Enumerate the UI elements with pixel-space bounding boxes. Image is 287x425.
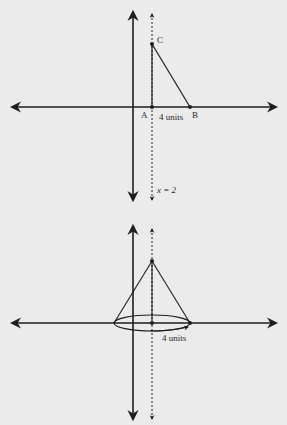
label-line-x2: x = 2	[156, 185, 177, 195]
cone-apex	[150, 259, 154, 263]
label-radius: 4 units	[162, 333, 187, 343]
figure-canvas: C A B 4 units x = 2	[0, 0, 287, 425]
diagram-svg: C A B 4 units x = 2	[0, 0, 287, 425]
label-c: C	[157, 35, 163, 45]
cone-base-edge	[188, 321, 192, 325]
point-b	[188, 105, 192, 109]
label-b: B	[192, 110, 198, 120]
cone-right-side	[152, 261, 190, 323]
point-a	[150, 105, 154, 109]
triangle-side-cb	[152, 44, 190, 107]
cone-base-center	[150, 321, 154, 325]
label-a: A	[141, 110, 148, 120]
point-c	[150, 42, 154, 46]
bottom-diagram: 4 units	[12, 226, 276, 419]
top-diagram: C A B 4 units x = 2	[12, 12, 276, 200]
label-base-length: 4 units	[159, 112, 184, 122]
